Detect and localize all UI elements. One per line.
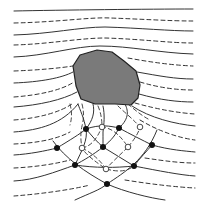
filled-node: [104, 181, 110, 187]
open-node: [79, 145, 85, 151]
open-node: [125, 144, 131, 150]
open-node: [137, 124, 143, 130]
flow-diagram: [0, 0, 206, 213]
filled-node: [83, 126, 89, 132]
filled-node: [116, 125, 122, 131]
filled-node: [54, 145, 60, 151]
open-node: [99, 124, 105, 130]
filled-node: [100, 144, 106, 150]
open-node: [103, 166, 109, 172]
filled-node: [131, 163, 137, 169]
filled-node: [149, 142, 155, 148]
filled-node: [72, 162, 78, 168]
